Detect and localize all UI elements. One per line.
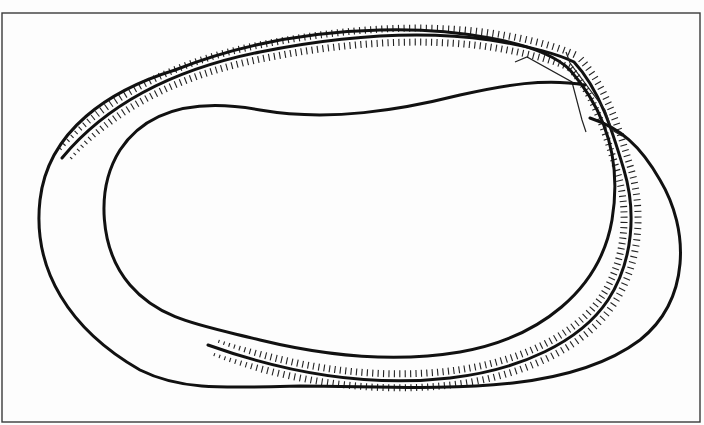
diagram-canvas <box>0 0 704 425</box>
diagram-background <box>0 0 704 425</box>
track-diagram <box>0 0 704 425</box>
